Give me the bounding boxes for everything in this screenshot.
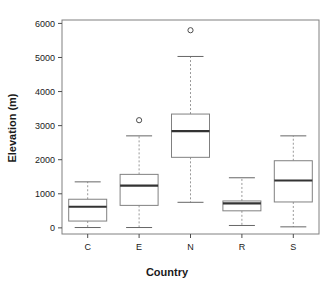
box-iqr bbox=[120, 174, 158, 205]
x-tick-label: S bbox=[290, 242, 296, 252]
x-tick-label: N bbox=[187, 242, 194, 252]
box-iqr bbox=[69, 199, 107, 221]
x-axis-title: Country bbox=[146, 266, 189, 278]
x-tick-label: R bbox=[239, 242, 246, 252]
box-iqr bbox=[172, 114, 210, 157]
y-tick-label: 5000 bbox=[35, 53, 55, 63]
y-tick-label: 2000 bbox=[35, 155, 55, 165]
figure-background bbox=[0, 0, 335, 283]
plot-canvas: 0100020003000400050006000 CENRS Country … bbox=[0, 0, 335, 283]
y-tick-label: 3000 bbox=[35, 121, 55, 131]
y-tick-label: 1000 bbox=[35, 189, 55, 199]
x-tick-label: E bbox=[136, 242, 142, 252]
boxplot-figure: 0100020003000400050006000 CENRS Country … bbox=[0, 0, 335, 283]
y-tick-label: 4000 bbox=[35, 87, 55, 97]
y-axis-title: Elevation (m) bbox=[6, 93, 18, 162]
y-tick-label: 0 bbox=[50, 223, 55, 233]
x-tick-label: C bbox=[84, 242, 91, 252]
y-tick-label: 6000 bbox=[35, 19, 55, 29]
